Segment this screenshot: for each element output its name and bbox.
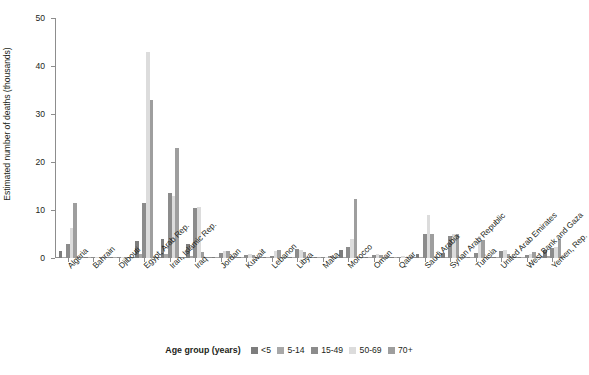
y-tick-label: 40 [35, 61, 45, 71]
bar [150, 100, 154, 258]
y-tick: 0 [51, 258, 55, 259]
legend-swatch [311, 347, 318, 354]
bar-group [81, 18, 107, 258]
legend-swatch [388, 347, 395, 354]
bar-group [361, 18, 387, 258]
legend-item[interactable]: 50-69 [349, 345, 381, 355]
legend-label: 5-14 [287, 345, 304, 355]
legend-label: <5 [261, 345, 271, 355]
y-tick-label: 0 [40, 253, 45, 263]
legend-swatch [277, 347, 284, 354]
bar-group [514, 18, 540, 258]
bar-group [463, 18, 489, 258]
bar-group [412, 18, 438, 258]
legend-item[interactable]: 70+ [388, 345, 413, 355]
bar-group [183, 18, 209, 258]
bar-group [438, 18, 464, 258]
bar-group [106, 18, 132, 258]
bar-group [132, 18, 158, 258]
bar-group [336, 18, 362, 258]
y-tick-label: 10 [35, 205, 45, 215]
bar [73, 203, 77, 258]
legend-title: Age group (years) [165, 345, 240, 355]
legend-label: 50-69 [360, 345, 382, 355]
bar [354, 199, 358, 258]
legend-label: 70+ [398, 345, 413, 355]
bar-group [157, 18, 183, 258]
bar-group [310, 18, 336, 258]
legend-item[interactable]: 5-14 [277, 345, 305, 355]
bar-group [234, 18, 260, 258]
bar-group [285, 18, 311, 258]
bar-group [55, 18, 81, 258]
legend-swatch [251, 347, 258, 354]
y-tick-label: 20 [35, 157, 45, 167]
legend-label: 15-49 [321, 345, 343, 355]
legend: Age group (years) <55-1415-4950-6970+ [0, 345, 584, 355]
legend-item[interactable]: <5 [251, 345, 271, 355]
bar-group [259, 18, 285, 258]
y-tick-label: 30 [35, 109, 45, 119]
legend-item[interactable]: 15-49 [311, 345, 343, 355]
y-tick-label: 50 [35, 13, 45, 23]
legend-swatch [349, 347, 356, 354]
y-axis-title: Estimated number of deaths (thousands) [2, 0, 16, 18]
bar-group [387, 18, 413, 258]
